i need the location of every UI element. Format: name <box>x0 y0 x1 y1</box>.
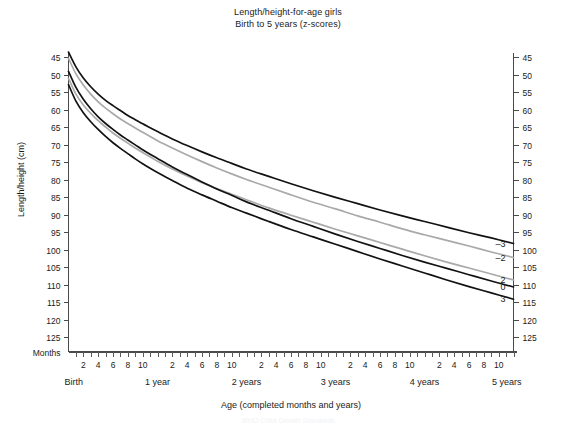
y-tick-label-right: 105 <box>523 263 537 273</box>
x-month-label: 6 <box>289 360 294 370</box>
y-tick-label-left: 110 <box>47 281 61 291</box>
x-month-label: 2 <box>348 360 353 370</box>
x-year-label: 4 years <box>410 377 440 387</box>
y-tick-label-left: 85 <box>51 193 61 203</box>
x-month-label: 6 <box>467 360 472 370</box>
x-year-label: 5 years <box>492 377 522 387</box>
x-month-label: 2 <box>170 360 175 370</box>
x-month-label: 2 <box>81 360 86 370</box>
y-tick-label-left: 75 <box>51 158 61 168</box>
x-year-label: 1 year <box>145 377 170 387</box>
y-tick-label-left: 90 <box>51 211 61 221</box>
y-axis-title: Length/height (cm) <box>16 142 26 217</box>
y-tick-label-left: 50 <box>51 71 61 81</box>
x-month-label: 6 <box>200 360 205 370</box>
x-month-label: 8 <box>125 360 130 370</box>
x-month-label: 10 <box>138 360 148 370</box>
y-tick-label-right: 120 <box>523 316 537 326</box>
x-month-label: 10 <box>227 360 237 370</box>
y-tick-label-left: 55 <box>51 88 61 98</box>
y-tick-label-right: 90 <box>523 211 533 221</box>
y-tick-label-right: 100 <box>523 246 537 256</box>
y-tick-label-right: 85 <box>523 193 533 203</box>
y-tick-label-left: 115 <box>47 298 61 308</box>
months-axis-label: Months <box>33 348 61 358</box>
y-tick-label-left: 95 <box>51 228 61 238</box>
y-tick-label-left: 70 <box>51 141 61 151</box>
y-tick-label-left: 45 <box>51 53 61 63</box>
x-year-label: Birth <box>65 377 84 387</box>
x-month-label: 4 <box>274 360 279 370</box>
y-tick-label-right: 80 <box>523 176 533 186</box>
curve-z3 <box>69 85 514 300</box>
x-month-label: 10 <box>494 360 504 370</box>
curve-z0 <box>69 71 514 287</box>
x-month-label: 10 <box>316 360 326 370</box>
x-month-label: 8 <box>481 360 486 370</box>
z-score-label-0: 0 <box>500 282 505 292</box>
y-tick-label-left: 120 <box>46 316 60 326</box>
y-tick-label-left: 80 <box>51 176 61 186</box>
z-score-label--3: –3 <box>495 239 505 249</box>
x-month-label: 4 <box>96 360 101 370</box>
z-score-label--2: –2 <box>495 253 505 263</box>
y-tick-label-right: 45 <box>523 53 533 63</box>
y-tick-label-right: 115 <box>523 298 537 308</box>
x-month-label: 6 <box>378 360 383 370</box>
x-month-label: 6 <box>111 360 116 370</box>
y-tick-label-right: 95 <box>523 228 533 238</box>
y-tick-label-left: 105 <box>46 263 60 273</box>
y-tick-label-left: 60 <box>51 106 61 116</box>
y-tick-label-left: 65 <box>51 123 61 133</box>
y-tick-label-right: 55 <box>523 88 533 98</box>
x-month-label: 4 <box>185 360 190 370</box>
y-tick-label-right: 60 <box>523 106 533 116</box>
curve-z2 <box>69 78 514 280</box>
x-month-label: 2 <box>259 360 264 370</box>
x-month-label: 10 <box>405 360 415 370</box>
y-tick-label-left: 125 <box>46 333 60 343</box>
x-month-label: 4 <box>452 360 457 370</box>
x-month-label: 8 <box>214 360 219 370</box>
y-tick-label-right: 125 <box>523 333 537 343</box>
y-tick-label-right: 70 <box>523 141 533 151</box>
y-tick-label-right: 110 <box>523 281 537 291</box>
x-year-label: 2 years <box>232 377 262 387</box>
y-tick-label-right: 50 <box>523 71 533 81</box>
x-month-label: 4 <box>363 360 368 370</box>
y-tick-label-right: 65 <box>523 123 533 133</box>
y-tick-label-left: 100 <box>46 246 60 256</box>
x-month-label: 2 <box>437 360 442 370</box>
x-year-label: 3 years <box>321 377 351 387</box>
z-score-label-3: 3 <box>500 294 505 304</box>
x-month-label: 8 <box>392 360 397 370</box>
x-axis-title: Age (completed months and years) <box>221 400 361 410</box>
growth-chart: Length/height-for-age girls Birth to 5 y… <box>0 0 576 425</box>
y-tick-label-right: 75 <box>523 158 533 168</box>
footer-note: WHO Child Growth Standards <box>0 417 576 425</box>
x-month-label: 8 <box>303 360 308 370</box>
chart-canvas: 4545505055556060656570707575808085859090… <box>0 0 576 425</box>
